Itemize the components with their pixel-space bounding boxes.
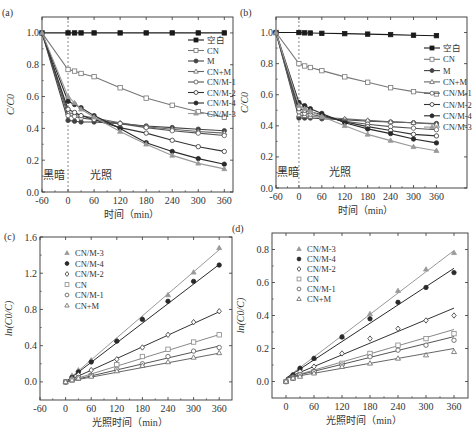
- square-marker: [302, 64, 306, 68]
- panel-a-chart: -600601201802403003600.00.20.40.60.81.0(…: [2, 7, 237, 220]
- circle-marker: [115, 339, 119, 343]
- triangle-marker: [297, 247, 301, 251]
- circle-marker: [430, 103, 434, 107]
- circle-marker: [217, 263, 221, 267]
- square-marker: [79, 31, 83, 35]
- circle-marker: [411, 132, 415, 136]
- diamond-marker: [89, 367, 93, 372]
- square-marker: [196, 31, 200, 35]
- circle-marker: [434, 134, 438, 138]
- y-tick-label: 1.0: [261, 27, 274, 38]
- series-group: [274, 30, 439, 153]
- x-axis-label: 光照时间（min）: [326, 414, 402, 426]
- y-tick-label: 0.8: [261, 58, 274, 69]
- x-tick-label: 0: [296, 191, 301, 202]
- triangle-marker: [424, 267, 429, 271]
- circle-marker: [365, 127, 369, 131]
- circle-marker: [340, 335, 344, 339]
- panel-d-chart: 0601201802403003600.00.20.40.60.8(d)光照时间…: [232, 223, 468, 426]
- panel-label: (c): [4, 231, 15, 243]
- x-tick-label: 0: [63, 403, 68, 414]
- circle-marker: [196, 131, 200, 135]
- x-tick-label: 240: [161, 403, 176, 414]
- circle-marker: [66, 107, 70, 111]
- series--: [40, 31, 227, 35]
- x-tick-label: 120: [335, 401, 350, 412]
- diamond-marker: [65, 272, 69, 277]
- x-tick-label: 180: [135, 403, 150, 414]
- legend-entry: CN/M-2: [443, 100, 472, 110]
- circle-marker: [452, 270, 456, 274]
- x-tick-label: 180: [360, 191, 375, 202]
- panel-label: (b): [240, 7, 252, 19]
- x-tick-label: 180: [139, 195, 154, 206]
- x-axis: -60060120180240300360: [33, 237, 226, 414]
- square-marker: [320, 31, 324, 35]
- series--: [274, 30, 439, 38]
- circle-marker: [388, 131, 392, 135]
- legend-entry: CN+M: [443, 77, 468, 87]
- square-marker: [302, 31, 306, 35]
- triangle-marker: [430, 125, 435, 129]
- y-tick-label: 0.2: [257, 343, 270, 354]
- legend-entry: CN/M-1: [307, 284, 336, 294]
- circle-marker: [66, 113, 70, 117]
- y-tick-label: 0.4: [25, 340, 38, 351]
- x-tick-label: 240: [165, 195, 180, 206]
- circle-marker: [430, 69, 434, 73]
- y-tick-label: 0.8: [25, 304, 38, 315]
- square-marker: [343, 75, 347, 79]
- legend-entry: CN+M: [207, 67, 232, 77]
- y-axis-label: C/C0: [239, 92, 250, 113]
- y-tick-label: 1.2: [25, 268, 38, 279]
- triangle-marker: [217, 350, 222, 354]
- y-tick-label: 0.0: [261, 183, 274, 194]
- square-marker: [118, 31, 122, 35]
- figure-canvas: -600601201802403003600.00.20.40.60.81.0(…: [0, 0, 476, 439]
- circle-marker: [452, 338, 456, 342]
- legend-entry: CN/M-2: [307, 264, 336, 274]
- square-marker: [140, 354, 144, 358]
- circle-marker: [297, 257, 301, 261]
- circle-marker: [312, 356, 316, 360]
- square-marker: [411, 33, 415, 37]
- square-marker: [92, 74, 96, 78]
- light-label: 光照: [90, 168, 112, 181]
- x-tick-label: 0: [284, 401, 289, 412]
- circle-marker: [66, 118, 70, 122]
- x-tick-label: 360: [212, 403, 227, 414]
- x-tick-label: -60: [33, 403, 46, 414]
- diamond-marker: [368, 336, 372, 341]
- panel-c-chart: -600601201802403003600.00.40.81.21.6(c)光…: [3, 231, 232, 428]
- x-tick-label: 60: [89, 195, 99, 206]
- x-tick-label: 360: [217, 195, 232, 206]
- square-marker: [66, 67, 70, 71]
- x-axis-label: 时间（min）: [104, 208, 160, 220]
- x-tick-label: 120: [337, 191, 352, 202]
- y-tick-label: 0.8: [27, 59, 40, 70]
- light-label: 光照: [329, 165, 351, 178]
- legend-entry: M: [207, 56, 215, 66]
- square-marker: [65, 283, 69, 287]
- y-axis-label: C/C0: [5, 94, 16, 115]
- square-marker: [308, 31, 312, 35]
- legend: 空白CNMCN+MCN/M-1CN/M-2CN/M-4CN/M-3: [188, 35, 237, 119]
- square-marker: [72, 69, 76, 73]
- circle-marker: [194, 80, 198, 84]
- circle-marker: [170, 138, 174, 142]
- x-tick-label: 300: [186, 403, 201, 414]
- square-marker: [92, 31, 96, 35]
- legend-entry: CN/M-3: [307, 244, 336, 254]
- square-marker: [72, 31, 76, 35]
- square-marker: [144, 96, 148, 100]
- y-tick-label: 0.8: [257, 244, 270, 255]
- square-marker: [411, 89, 415, 93]
- y-tick-label: 0.2: [261, 151, 274, 162]
- square-marker: [320, 68, 324, 72]
- y-tick-label: 0.6: [27, 91, 40, 102]
- circle-marker: [144, 125, 148, 129]
- circle-marker: [424, 343, 428, 347]
- dark-label: 黑暗: [43, 168, 65, 181]
- x-axis-label: 光照时间（min）: [92, 416, 168, 428]
- circle-marker: [430, 91, 434, 95]
